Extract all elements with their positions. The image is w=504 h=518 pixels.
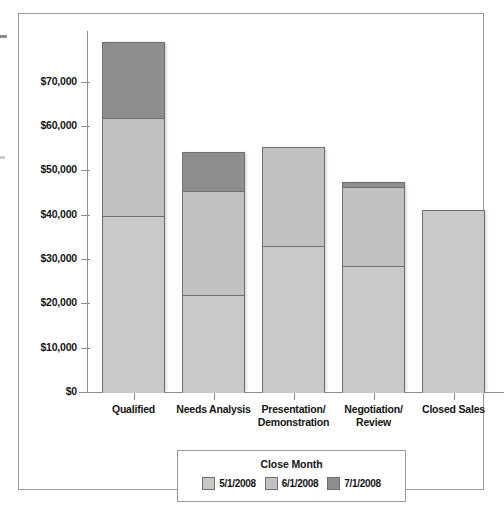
- bar-group[interactable]: [422, 31, 485, 392]
- x-axis-tick-mark: [374, 393, 375, 400]
- x-axis-tick-mark: [294, 393, 295, 400]
- bar-segment[interactable]: [183, 192, 244, 296]
- legend-swatch: [327, 477, 340, 490]
- crop-mark-top: [0, 35, 7, 38]
- x-axis-category-label: Needs Analysis: [169, 403, 258, 416]
- legend-items: 5/1/20086/1/20087/1/2008: [178, 477, 405, 490]
- legend-swatch: [202, 477, 215, 490]
- bar-segment[interactable]: [183, 153, 244, 192]
- x-axis-category-label: Qualified: [89, 403, 178, 416]
- bar-segment[interactable]: [263, 247, 324, 393]
- bar-group[interactable]: [262, 31, 325, 392]
- category-label-line2: Demonstration: [249, 416, 338, 429]
- bar-group[interactable]: [102, 31, 165, 392]
- category-label-line1: Presentation/: [249, 403, 338, 416]
- category-label-line1: Negotiation/: [329, 403, 418, 416]
- legend-label: 5/1/2008: [219, 478, 256, 489]
- bar-segment[interactable]: [423, 211, 484, 393]
- legend-item[interactable]: 5/1/2008: [202, 477, 256, 490]
- bar-segment[interactable]: [103, 119, 164, 216]
- y-axis-tick-label: $60,000: [40, 119, 77, 131]
- y-axis-tick-mark: [81, 392, 90, 393]
- x-axis-category-label: Closed Sales: [409, 403, 498, 416]
- x-axis-tick-mark: [214, 393, 215, 400]
- legend-label: 7/1/2008: [344, 478, 381, 489]
- bar-segment[interactable]: [103, 43, 164, 119]
- bar-segment[interactable]: [343, 188, 404, 266]
- bar-stack[interactable]: [262, 147, 325, 392]
- bar-segment[interactable]: [263, 148, 324, 246]
- x-axis-category-label: Presentation/Demonstration: [249, 403, 338, 429]
- legend-item[interactable]: 6/1/2008: [265, 477, 319, 490]
- legend-swatch: [265, 477, 278, 490]
- y-axis-tick-label: $0: [66, 385, 77, 397]
- category-label-line1: Needs Analysis: [169, 403, 258, 416]
- bar-segment[interactable]: [343, 267, 404, 393]
- chart-frame: $70,000$60,000$50,000$40,000$30,000$20,0…: [18, 13, 484, 490]
- category-label-line1: Qualified: [89, 403, 178, 416]
- bar-segment[interactable]: [183, 296, 244, 393]
- bar-stack[interactable]: [342, 182, 405, 392]
- legend-label: 6/1/2008: [282, 478, 319, 489]
- category-label-line1: Closed Sales: [409, 403, 498, 416]
- bar-group[interactable]: [342, 31, 405, 392]
- bar-stack[interactable]: [102, 42, 165, 392]
- x-axis-category-label: Negotiation/Review: [329, 403, 418, 429]
- y-axis-tick-label: $30,000: [40, 252, 77, 264]
- legend: Close Month 5/1/20086/1/20087/1/2008: [177, 450, 406, 502]
- legend-item[interactable]: 7/1/2008: [327, 477, 381, 490]
- y-axis-tick-label: $50,000: [40, 163, 77, 175]
- bar-segment[interactable]: [103, 217, 164, 393]
- y-axis-tick-label: $10,000: [40, 341, 77, 353]
- x-axis-tick-mark: [134, 393, 135, 400]
- y-axis-tick-label: $70,000: [40, 75, 77, 87]
- plot-area: [87, 31, 499, 392]
- category-label-line2: Review: [329, 416, 418, 429]
- bar-group[interactable]: [182, 31, 245, 392]
- crop-mark-middle: [0, 156, 5, 159]
- bar-stack[interactable]: [182, 152, 245, 392]
- legend-title: Close Month: [178, 458, 405, 470]
- bar-stack[interactable]: [422, 210, 485, 392]
- y-axis-tick-label: $40,000: [40, 208, 77, 220]
- x-axis-tick-mark: [454, 393, 455, 400]
- y-axis-tick-label: $20,000: [40, 296, 77, 308]
